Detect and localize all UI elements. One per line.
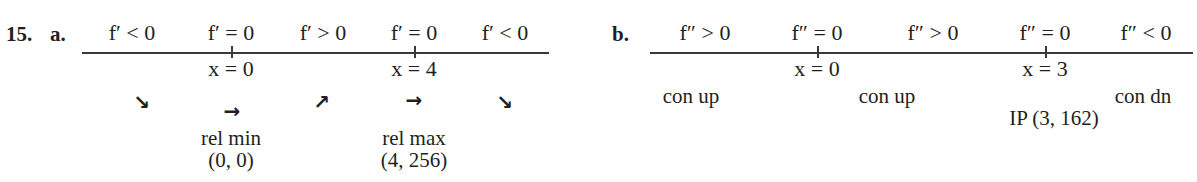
part-b-label: b.	[612, 22, 629, 47]
condition-a-4: f′ = 0	[391, 20, 438, 46]
concavity-b-2: con up	[859, 85, 916, 107]
condition-a-5: f′ < 0	[482, 20, 529, 46]
decreasing-arrow-icon: ↘	[497, 90, 514, 114]
problem-number: 15.	[6, 22, 32, 47]
condition-a-3: f′ > 0	[300, 20, 347, 46]
decreasing-arrow-icon: ↘	[134, 90, 151, 114]
condition-a-1: f′ < 0	[109, 20, 156, 46]
extremum-type: rel max	[381, 127, 448, 149]
extremum-type: rel min	[201, 127, 261, 149]
horizontal-arrow-icon: →	[406, 88, 423, 112]
condition-b-3: f″ > 0	[908, 20, 959, 46]
extremum-point: (0, 0)	[201, 149, 261, 171]
part-a-label: a.	[50, 22, 66, 47]
number-line-a	[82, 52, 549, 54]
concavity-b-3: con dn	[1115, 85, 1172, 107]
horizontal-arrow-icon: →	[224, 99, 241, 123]
extremum-a-2: rel max (4, 256)	[381, 127, 448, 171]
increasing-arrow-icon: ↗	[314, 90, 331, 114]
critical-point-b-1: x = 0	[794, 56, 839, 82]
number-line-b	[650, 52, 1193, 54]
critical-point-a-2: x = 4	[391, 56, 436, 82]
extremum-a-1: rel min (0, 0)	[201, 127, 261, 171]
condition-b-1: f″ > 0	[680, 20, 731, 46]
condition-b-5: f″ < 0	[1121, 20, 1172, 46]
condition-b-4: f″ = 0	[1020, 20, 1071, 46]
concavity-b-1: con up	[663, 85, 720, 107]
condition-b-2: f″ = 0	[792, 20, 843, 46]
condition-a-2: f′ = 0	[208, 20, 255, 46]
critical-point-a-1: x = 0	[208, 56, 253, 82]
critical-point-b-2: x = 3	[1022, 56, 1067, 82]
inflection-point: IP (3, 162)	[1009, 107, 1099, 129]
extremum-point: (4, 256)	[381, 149, 448, 171]
